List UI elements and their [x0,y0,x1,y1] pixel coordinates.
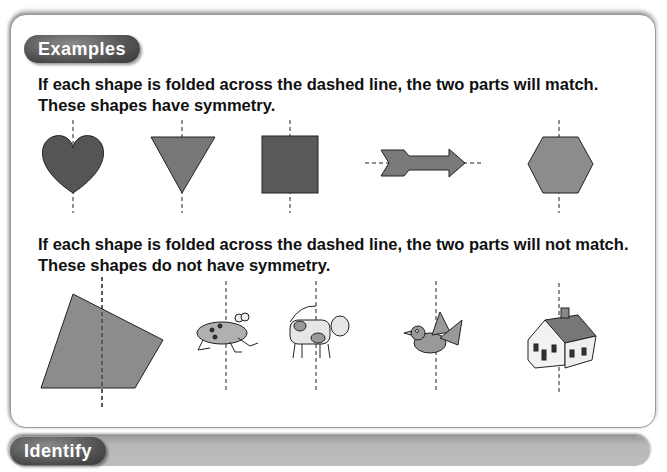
bird-illustration [404,312,462,353]
shapes-canvas [0,0,667,472]
hexagon-shape [528,137,593,193]
cow-illustration [290,306,349,358]
house-illustration [528,308,596,368]
arrow-shape [381,149,465,177]
identify-label: Identify [10,437,106,465]
frog-illustration [197,313,258,352]
square-shape [262,136,318,193]
quadrilateral-shape [41,277,163,407]
triangle-shape [151,137,215,193]
